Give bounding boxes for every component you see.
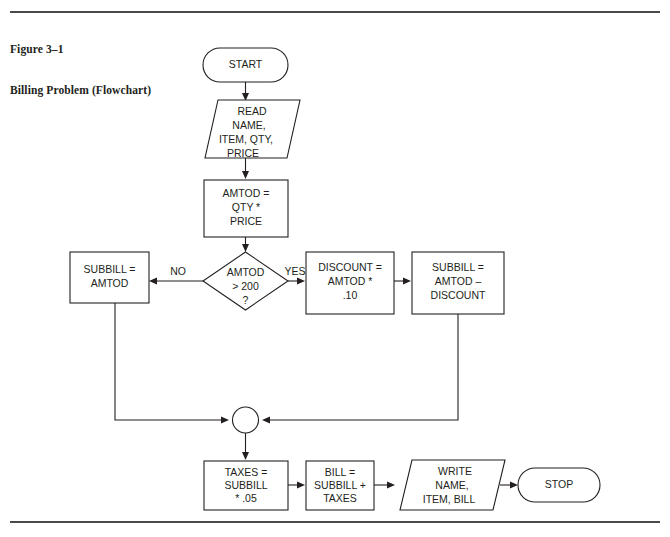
node-subbill-yes-line1: SUBBILL = (432, 261, 484, 273)
node-bill[interactable]: BILL = SUBBILL + TAXES (306, 461, 374, 510)
node-taxes-line1: TAXES = (225, 466, 268, 478)
edge-amtod-to-decision (242, 237, 249, 252)
edge-decision-yes (288, 278, 305, 285)
edge-write-to-stop (500, 482, 518, 489)
edge-read-to-amtod (242, 158, 249, 179)
node-write-line2: NAME, (435, 479, 468, 491)
node-write-line3: ITEM, BILL (423, 493, 476, 505)
node-subbill-no-line1: SUBBILL = (84, 263, 136, 275)
node-subbill-yes[interactable]: SUBBILL = AMTOD – DISCOUNT (412, 252, 504, 314)
node-read-line2: NAME, (232, 119, 265, 131)
node-taxes[interactable]: TAXES = SUBBILL * .05 (204, 461, 288, 510)
node-discount-line1: DISCOUNT = (318, 261, 382, 273)
node-amtod-line3: PRICE (230, 215, 262, 227)
node-decision[interactable]: AMTOD > 200 ? (203, 252, 288, 310)
node-read[interactable]: READ NAME, ITEM, QTY, PRICE (205, 100, 300, 159)
node-decision-line2: > 200 (232, 280, 259, 292)
node-stop-label: STOP (545, 478, 573, 490)
node-subbill-yes-line2: AMTOD – (435, 275, 482, 287)
node-subbill-no[interactable]: SUBBILL = AMTOD (70, 252, 149, 303)
node-decision-line1: AMTOD (227, 266, 265, 278)
node-discount-line3: .10 (343, 289, 358, 301)
node-bill-line3: TAXES (323, 492, 357, 504)
node-amtod-line1: AMTOD = (223, 187, 270, 199)
edge-subbill-no-to-junction (115, 303, 229, 424)
node-stop[interactable]: STOP (518, 468, 600, 502)
edge-start-to-read (242, 82, 249, 101)
node-junction[interactable] (233, 407, 259, 433)
branch-label-no: NO (170, 265, 186, 277)
node-bill-line1: BILL = (325, 466, 355, 478)
edge-junction-to-taxes (242, 433, 249, 460)
node-taxes-line3: * .05 (235, 492, 257, 504)
node-taxes-line2: SUBBILL (224, 479, 267, 491)
node-amtod-line2: QTY * (232, 201, 260, 213)
branch-label-yes: YES (284, 265, 305, 277)
node-bill-line2: SUBBILL + (314, 479, 366, 491)
node-subbill-yes-line3: DISCOUNT (431, 289, 486, 301)
node-decision-line3: ? (243, 294, 249, 306)
node-subbill-no-line2: AMTOD (91, 277, 129, 289)
node-amtod[interactable]: AMTOD = QTY * PRICE (204, 180, 288, 237)
figure-page: Figure 3–1 Billing Problem (Flowchart) (0, 0, 670, 537)
edge-subbill-yes-to-junction (262, 303, 458, 424)
node-read-line3: ITEM, QTY, (219, 133, 273, 145)
bottom-rule (10, 521, 660, 523)
node-discount-line2: AMTOD * (328, 275, 373, 287)
node-start-label: START (229, 58, 263, 70)
node-read-line4: PRICE (227, 147, 259, 159)
edge-taxes-to-bill (288, 482, 305, 489)
node-discount[interactable]: DISCOUNT = AMTOD * .10 (306, 252, 394, 314)
edge-bill-to-write (374, 482, 395, 489)
node-start[interactable]: START (203, 48, 288, 82)
edge-discount-to-subbill (394, 278, 411, 285)
node-read-line1: READ (237, 105, 267, 117)
flowchart-diagram: START READ NAME, ITEM, QTY, PRICE AMTOD … (0, 0, 670, 537)
node-write[interactable]: WRITE NAME, ITEM, BILL (400, 460, 505, 510)
node-write-line1: WRITE (438, 465, 472, 477)
edge-decision-no (149, 278, 203, 285)
